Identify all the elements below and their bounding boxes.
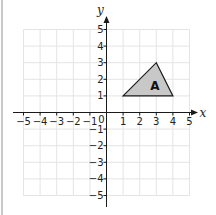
x-tick-label: 2 <box>137 116 143 127</box>
y-tick-label: 5 <box>97 24 103 35</box>
coordinate-grid-chart: A −5−4−3−2−1012345−5−4−3−2−112345xy <box>0 0 216 215</box>
y-tick-label: −1 <box>89 124 104 135</box>
x-tick-label: 1 <box>120 116 126 127</box>
x-tick-label: −3 <box>49 116 64 127</box>
axes <box>13 16 198 207</box>
y-tick-label: −3 <box>89 157 104 168</box>
x-axis-label: x <box>200 106 207 120</box>
y-tick-label: −5 <box>89 190 104 201</box>
y-axis-arrow-icon <box>104 16 110 23</box>
tick-labels: −5−4−3−2−1012345−5−4−3−2−112345xy <box>16 3 206 201</box>
x-tick-label: 4 <box>170 116 176 127</box>
y-tick-label: −4 <box>89 173 104 184</box>
x-tick-label: −4 <box>33 116 48 127</box>
x-tick-label: 3 <box>153 116 159 127</box>
y-axis-label: y <box>96 3 104 17</box>
x-tick-label: −2 <box>66 116 81 127</box>
y-tick-label: −2 <box>89 140 104 151</box>
x-tick-label: −5 <box>16 116 31 127</box>
y-tick-label: 4 <box>97 41 103 52</box>
shape-label: A <box>150 79 160 93</box>
y-tick-label: 2 <box>97 74 103 85</box>
x-tick-label: 5 <box>186 116 192 127</box>
y-tick-label: 3 <box>97 57 103 68</box>
y-tick-label: 1 <box>97 90 103 101</box>
